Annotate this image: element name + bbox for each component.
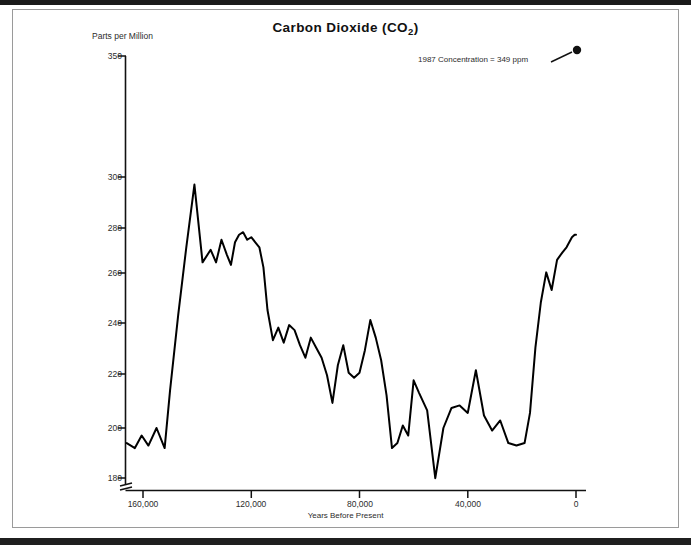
annotation-leader-line [551,52,572,62]
co2-line-chart: Carbon Dioxide (CO2) Parts per Million Y… [0,0,691,545]
chart-page: Carbon Dioxide (CO2) Parts per Million Y… [0,0,691,545]
co2-data-line [127,185,576,479]
annotation-marker-dot [573,46,581,54]
y-axis-break-icon [120,483,132,490]
